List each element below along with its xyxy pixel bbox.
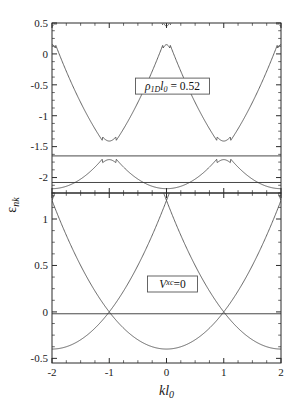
x-tick-label-4: 2 [278,366,284,378]
y-tick-label-bottom-1: 0.5 [34,259,48,271]
y-tick-label-top-5: -2 [39,171,48,183]
band-curve-1-bottom [52,312,281,349]
y-tick-label-top-4: -1.5 [31,140,49,152]
x-tick-label-0: -2 [47,366,56,378]
x-tick-label-1: -1 [105,366,114,378]
annotation-label-bottom: Vxc=0 [159,278,186,290]
band-curve-1-top [52,159,281,188]
y-tick-label-top-3: -1 [39,110,48,122]
y-tick-label-top-0: 0.5 [34,17,48,29]
x-tick-label-2: 0 [164,366,170,378]
annotation-bottom: Vxc=0 [148,276,198,292]
panel-curves-top [52,23,281,188]
y-tick-label-bottom-0: 1 [43,213,49,225]
x-tick-label-3: 1 [221,366,227,378]
y-tick-label-top-1: 0 [43,48,49,60]
y-axis-title: εnk [4,197,21,213]
panel-top: 0.50-0.5-1-1.5-2ρ1Dl0 = 0.52 [31,17,281,193]
panel-curves-bottom [52,193,281,349]
band-structure-figure: 0.50-0.5-1-1.5-2ρ1Dl0 = 0.5210.50-0.5Vxc… [0,0,300,410]
panel-frame-top [52,23,281,193]
y-tick-label-top-2: -0.5 [31,79,49,91]
annotation-top: ρ1Dl0 = 0.52 [136,78,210,94]
x-axis-title: kl0 [159,383,174,400]
y-tick-label-bottom-3: -0.5 [31,352,49,364]
plot-canvas: 0.50-0.5-1-1.5-2ρ1Dl0 = 0.5210.50-0.5Vxc… [0,0,300,410]
panel-bottom: 10.50-0.5Vxc=0 [31,193,281,364]
y-tick-label-bottom-2: 0 [43,306,49,318]
band-curve-2-bottom [52,200,281,311]
